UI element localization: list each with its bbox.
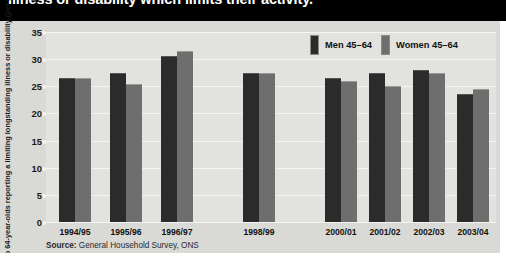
y-tick-dot — [42, 167, 46, 171]
legend: Men 45–64Women 45–64 — [310, 35, 458, 55]
bar — [457, 94, 473, 222]
bar — [161, 56, 177, 222]
legend-label: Women 45–64 — [396, 40, 458, 50]
page-title: illness or disability which limits their… — [8, 0, 313, 7]
bar — [341, 81, 357, 222]
page-edge-bottom — [0, 253, 506, 257]
bar — [177, 51, 193, 222]
bar — [473, 89, 489, 222]
y-tick-label: 30 — [18, 54, 42, 65]
y-tick-dot — [42, 140, 46, 144]
title-banner: illness or disability which limits their… — [0, 0, 506, 21]
plot-area: 1994/951995/961996/971998/992000/012001/… — [46, 32, 496, 222]
y-tick-label: 0 — [18, 217, 42, 228]
y-tick-label: 10 — [18, 163, 42, 174]
x-tick-label: 1996/97 — [147, 227, 207, 237]
bar — [385, 86, 401, 222]
y-tick-dot — [42, 112, 46, 116]
legend-swatch — [381, 35, 390, 55]
bar — [110, 73, 126, 222]
bar — [325, 78, 341, 222]
y-axis-label-text: 45- to 64-year-olds reporting a limiting… — [4, 0, 12, 257]
source-text: General Household Survey, ONS — [79, 241, 199, 250]
gridline — [46, 32, 496, 33]
bar — [243, 73, 259, 222]
legend-item: Women 45–64 — [381, 35, 458, 55]
x-tick-label: 2003/04 — [443, 227, 503, 237]
bar — [259, 73, 275, 222]
source-note: Source: General Household Survey, ONS — [46, 241, 199, 250]
source-prefix: Source: — [46, 241, 76, 250]
y-tick-dot — [42, 58, 46, 62]
legend-item: Men 45–64 — [310, 35, 372, 55]
legend-swatch — [310, 35, 319, 55]
bar — [429, 73, 445, 222]
page-edge-right — [500, 21, 506, 257]
y-tick-dot — [42, 194, 46, 198]
legend-label: Men 45–64 — [325, 40, 372, 50]
y-tick-label: 20 — [18, 108, 42, 119]
gridline — [46, 59, 496, 60]
bar — [369, 73, 385, 222]
y-tick-label: 25 — [18, 81, 42, 92]
y-axis-label: 45- to 64-year-olds reporting a limiting… — [1, 32, 15, 222]
bar — [59, 78, 75, 222]
chart-panel: 45- to 64-year-olds reporting a limiting… — [0, 21, 506, 257]
chart-figure: illness or disability which limits their… — [0, 0, 506, 257]
y-tick-dot — [42, 31, 46, 35]
y-tick-label: 15 — [18, 136, 42, 147]
y-tick-dot — [42, 221, 46, 225]
y-tick-dot — [42, 85, 46, 89]
gridline — [46, 222, 496, 223]
bar — [126, 84, 142, 222]
y-tick-label: 5 — [18, 190, 42, 201]
x-tick-label: 1998/99 — [229, 227, 289, 237]
bar — [413, 70, 429, 222]
y-tick-label: 35 — [18, 27, 42, 38]
bar — [75, 78, 91, 222]
